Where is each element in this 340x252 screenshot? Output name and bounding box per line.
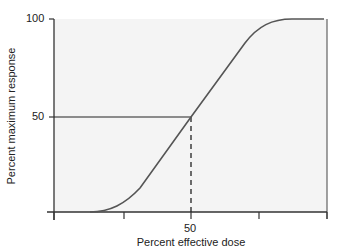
chart-canvas xyxy=(0,0,340,252)
y-tick-label-50: 50 xyxy=(32,110,44,122)
y-axis-label: Percent maximum response xyxy=(5,48,17,185)
y-tick-label-100: 100 xyxy=(26,12,44,24)
x-axis-label: Percent effective dose xyxy=(137,236,246,248)
x-tick-label-50: 50 xyxy=(184,222,196,234)
